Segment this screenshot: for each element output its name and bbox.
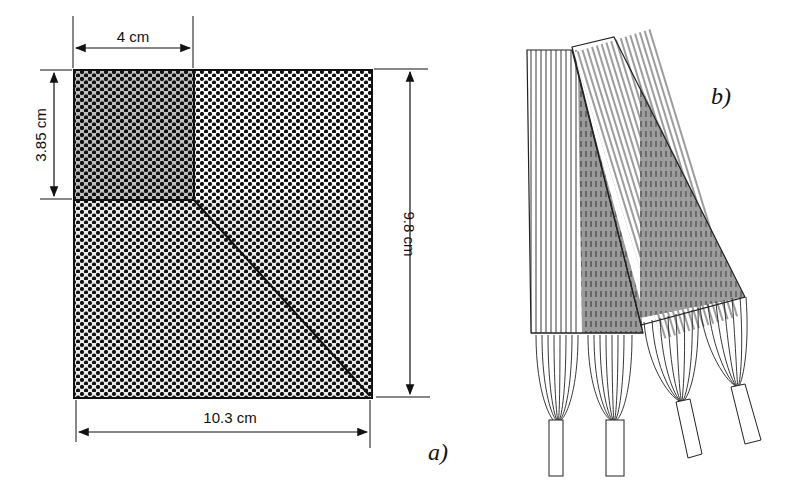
dimension-right-height: 9.8 cm [374, 69, 430, 397]
fiber-bundle-1 [536, 335, 578, 422]
panel-b: b) [527, 29, 761, 476]
perforated-sheet [74, 70, 372, 398]
connector-1 [549, 420, 563, 476]
svg-text:10.3 cm: 10.3 cm [203, 409, 256, 426]
svg-text:3.85 cm: 3.85 cm [32, 108, 49, 161]
panel-b-label: b) [711, 83, 731, 109]
svg-text:9.8 cm: 9.8 cm [401, 211, 418, 256]
dimension-bottom-width: 10.3 cm [76, 400, 370, 448]
dimension-top-width: 4 cm [73, 16, 193, 68]
connector-3 [676, 399, 702, 458]
fiber-bundle-2 [588, 335, 632, 421]
connector-2 [606, 420, 624, 476]
connector-4 [731, 384, 761, 444]
dimension-left-height: 3.85 cm [32, 70, 72, 199]
figure-canvas: 4 cm 3.85 cm 9.8 cm 10.3 cm a) [0, 0, 812, 498]
panel-a: 4 cm 3.85 cm 9.8 cm 10.3 cm a) [32, 16, 448, 465]
panel-a-label: a) [428, 439, 448, 465]
svg-text:4 cm: 4 cm [117, 28, 150, 45]
